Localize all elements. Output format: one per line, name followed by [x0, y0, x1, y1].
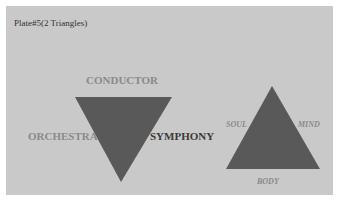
triangles-diagram: [0, 0, 340, 201]
label-symphony: SYMPHONY: [150, 130, 214, 142]
label-mind: MIND: [298, 120, 320, 129]
label-orchestra: ORCHESTRA: [28, 130, 98, 142]
label-body: BODY: [257, 177, 279, 186]
label-conductor: CONDUCTOR: [86, 74, 158, 86]
label-soul: SOUL: [226, 120, 247, 129]
